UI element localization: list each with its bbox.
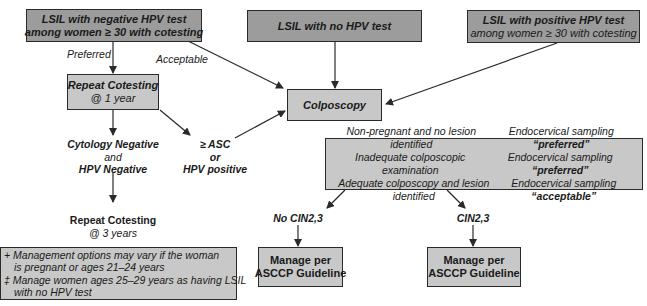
node-lsil-no-hpv: LSIL with no HPV test <box>247 10 422 42</box>
node-endocervical-sampling: Non-pregnant and no lesion identified En… <box>325 138 643 190</box>
edge-label-preferred: Preferred <box>67 48 111 61</box>
endocervical-row: Inadequate colposcopic examination Endoc… <box>334 151 634 177</box>
node-lsil-positive-hpv: LSIL with positive HPV test among women … <box>467 10 640 43</box>
node-manage-asccp-2: Manage per ASCCP Guideline <box>427 247 521 287</box>
endocervical-row: Non-pregnant and no lesion identified En… <box>334 125 634 151</box>
outcome-cin23: CIN2,3 <box>447 212 499 225</box>
endocervical-row: Adequate colposcopy and lesion identifie… <box>334 177 634 203</box>
node-lsil-negative-hpv: LSIL with negative HPV test among women … <box>26 9 202 42</box>
outcome-asc-or-hpv-positive: ≥ ASC or HPV positive <box>180 138 250 176</box>
node-colposcopy: Colposcopy <box>287 89 382 121</box>
edge-label-acceptable: Acceptable <box>156 53 208 66</box>
outcome-cytology-negative: Cytology Negative and HPV Negative <box>60 138 166 176</box>
node-manage-asccp-1: Manage per ASCCP Guideline <box>258 247 343 287</box>
footnotes-box: + Management options may vary if the wom… <box>0 247 237 300</box>
outcome-no-cin23: No CIN2,3 <box>270 212 326 225</box>
node-repeat-cotesting-1yr: Repeat Cotesting @ 1 year <box>67 74 159 110</box>
outcome-repeat-cotesting-3yr: Repeat Cotesting @ 3 years <box>60 214 166 239</box>
